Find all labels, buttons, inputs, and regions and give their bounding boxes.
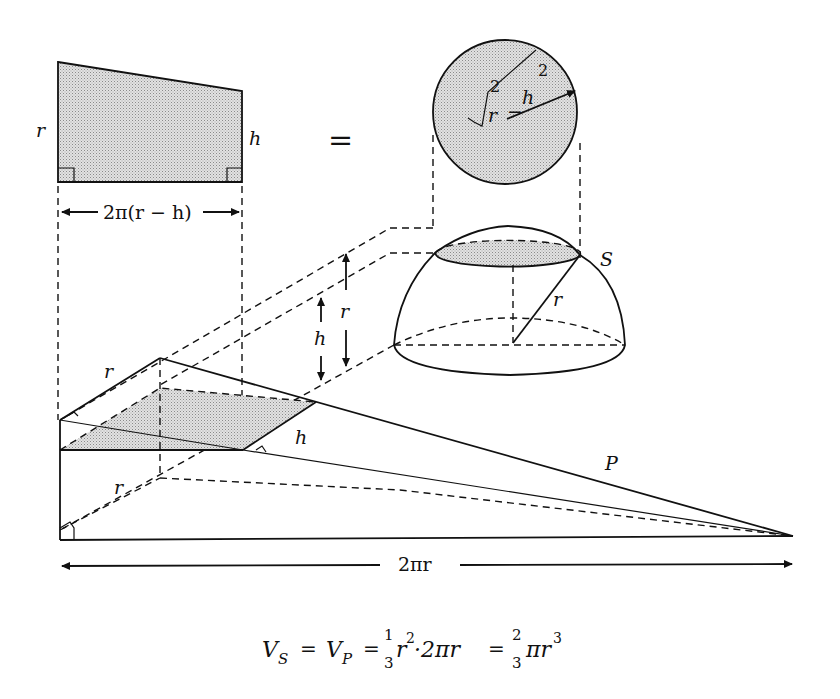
svg-text:3: 3 (553, 630, 562, 646)
svg-text:=: = (300, 637, 317, 661)
equals-sign: = (328, 122, 353, 157)
trapezoid-cross-section: r h 2π(r − h) (36, 62, 261, 223)
disc-h-exponent: 2 (538, 61, 548, 80)
svg-text:=: = (363, 637, 380, 661)
base-arrow-left-icon (62, 565, 380, 566)
svg-text:=: = (488, 637, 505, 661)
diagram-canvas: r h 2π(r − h) = r 2 − h 2 r S (0, 0, 840, 699)
pyramid-edge-r-top-label: r (104, 360, 115, 382)
disc-r-exponent: 2 (490, 77, 500, 96)
height-r-label: r (340, 300, 351, 322)
pyramid-p-label: P (604, 452, 619, 474)
height-h-label: h (314, 327, 326, 349)
volume-formula: V S = V P = 1 3 r 2 ·2πr = 2 3 πr 3 (262, 626, 562, 672)
svg-text:P: P (341, 650, 353, 668)
hemisphere-radius-label: r (553, 288, 564, 310)
svg-text:2: 2 (512, 626, 522, 644)
trapezoid-width-label: 2π(r − h) (103, 201, 192, 223)
svg-text:πr: πr (525, 637, 552, 662)
pyramid-edge-h-label: h (295, 426, 307, 448)
trapezoid-r-label: r (36, 119, 47, 141)
disc-cross-section: r 2 − h 2 (433, 40, 577, 184)
svg-text:·2πr: ·2πr (414, 637, 461, 662)
base-length-label: 2πr (398, 553, 433, 575)
pyramid: r h r P (60, 358, 793, 540)
trapezoid-h-label: h (249, 127, 261, 149)
hemisphere-pyramid-diagram: r h 2π(r − h) = r 2 − h 2 r S (0, 0, 840, 699)
base-arrow-right-icon (460, 564, 792, 565)
hemisphere-s-label: S (600, 248, 613, 270)
disc-h-label: h (522, 86, 534, 108)
svg-text:3: 3 (512, 654, 522, 672)
hemisphere: r S (394, 226, 625, 375)
svg-text:1: 1 (384, 626, 394, 644)
svg-text:3: 3 (384, 654, 394, 672)
svg-text:S: S (278, 650, 288, 668)
pyramid-edge-r-bottom-label: r (114, 476, 125, 498)
